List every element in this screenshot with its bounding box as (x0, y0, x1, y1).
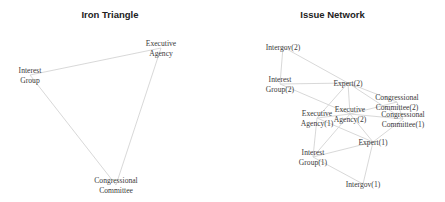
edge-ig-ea (30, 48, 161, 75)
node-expert1: Expert(1) (358, 138, 388, 147)
node-expert2: Expert(2) (333, 79, 363, 88)
node-cc2: CongressionalCommittee(2) (375, 93, 418, 112)
edge-intergov2-expert2 (283, 47, 348, 83)
node-intergov2: Intergov(2) (266, 43, 301, 52)
issue-network-graph: Intergov(2)InterestGroup(2)Expert(2)Cong… (220, 0, 445, 202)
node-intergov1: Intergov(1) (346, 180, 381, 189)
node-ea1: ExecutiveAgency(1) (301, 109, 334, 128)
node-cc1: CongressionalCommittee(1) (381, 110, 424, 129)
edge-expert1-intergov1 (363, 142, 373, 184)
edge-ig-cc (30, 75, 116, 185)
node-ea2: ExecutiveAgency(2) (334, 105, 367, 124)
node-ig2: InterestGroup(2) (266, 75, 295, 94)
issue-network-panel: Issue Network Intergov(2)InterestGroup(2… (220, 0, 445, 202)
node-cc: CongressionalCommittee (94, 176, 137, 195)
iron-triangle-graph: InterestGroupExecutiveAgencyCongressiona… (0, 0, 220, 202)
edge-ea-cc (116, 48, 161, 185)
iron-triangle-panel: Iron Triangle InterestGroupExecutiveAgen… (0, 0, 220, 202)
node-ig1: InterestGroup(1) (299, 148, 328, 167)
node-ig: InterestGroup (19, 66, 43, 85)
edges (30, 48, 161, 185)
node-ea: ExecutiveAgency (146, 39, 177, 58)
